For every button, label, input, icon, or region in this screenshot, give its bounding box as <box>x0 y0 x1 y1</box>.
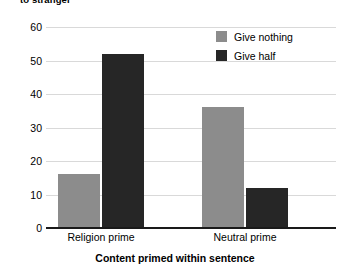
x-axis-labels: Religion prime Neutral prime <box>46 231 336 247</box>
legend-swatch-give-half-icon <box>216 50 227 61</box>
bar-chart: to stranger 60 50 40 30 20 10 0 Religion… <box>0 0 350 275</box>
legend-label-give-nothing: Give nothing <box>234 31 293 43</box>
legend-label-give-half: Give half <box>234 50 275 62</box>
x-axis-title: Content primed within sentence <box>0 252 350 264</box>
x-label-religion-prime: Religion prime <box>67 231 134 243</box>
legend-item-give-half: Give half <box>216 47 293 64</box>
legend: Give nothing Give half <box>216 28 293 66</box>
x-axis-line <box>46 227 336 229</box>
y-axis-ticks: 60 50 40 30 20 10 0 <box>0 27 42 228</box>
gridline-30 <box>46 128 336 129</box>
legend-item-give-nothing: Give nothing <box>216 28 293 45</box>
bar-neutral-give-half <box>246 188 288 228</box>
y-tick-0: 0 <box>2 223 42 234</box>
gridline-40 <box>46 94 336 95</box>
bar-religion-give-nothing <box>58 174 100 228</box>
y-tick-60: 60 <box>2 22 42 33</box>
chart-title: to stranger <box>20 0 71 5</box>
y-tick-30: 30 <box>2 122 42 133</box>
y-tick-10: 10 <box>2 189 42 200</box>
bar-religion-give-half <box>102 54 144 228</box>
bar-neutral-give-nothing <box>202 107 244 228</box>
y-tick-40: 40 <box>2 89 42 100</box>
legend-swatch-give-nothing-icon <box>216 31 227 42</box>
x-label-neutral-prime: Neutral prime <box>213 231 276 243</box>
gridline-20 <box>46 161 336 162</box>
y-tick-50: 50 <box>2 55 42 66</box>
y-tick-20: 20 <box>2 156 42 167</box>
